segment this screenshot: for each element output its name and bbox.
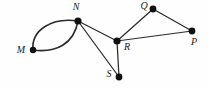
graph-edge-n-s	[78, 21, 119, 77]
graph-edge-q-p	[153, 9, 192, 31]
graph-edge-m-n	[33, 20, 78, 50]
label-layer: MNQRPS	[16, 0, 197, 79]
vertex-label-s: S	[107, 68, 112, 79]
graph-figure: MNQRPS	[0, 0, 210, 89]
vertex-label-q: Q	[140, 0, 148, 11]
graph-edge-r-q	[117, 9, 153, 41]
edge-layer	[33, 9, 192, 77]
graph-edge-m-n	[33, 21, 78, 51]
graph-edge-n-r	[78, 21, 117, 41]
graph-edge-r-p	[117, 31, 192, 41]
vertex-label-m: M	[16, 44, 26, 55]
graph-vertex-r	[113, 37, 120, 44]
graph-canvas: MNQRPS	[0, 0, 210, 89]
graph-vertex-m	[30, 47, 36, 53]
vertex-label-p: P	[190, 36, 197, 47]
graph-vertex-q	[150, 6, 157, 13]
graph-vertex-p	[189, 28, 196, 35]
graph-vertex-n	[74, 17, 81, 24]
vertex-label-r: R	[123, 41, 130, 52]
graph-edge-r-s	[117, 41, 119, 77]
vertex-label-n: N	[72, 1, 81, 12]
graph-vertex-s	[116, 74, 123, 81]
